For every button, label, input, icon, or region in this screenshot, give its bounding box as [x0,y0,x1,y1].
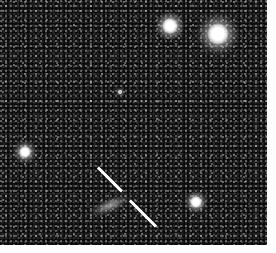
background-grain-sparse [0,0,267,245]
star-faint-center [114,86,126,98]
star-lower-right [182,188,210,216]
marker-tick-upper-left [97,166,123,192]
marker-tick-lower-right [129,199,157,227]
background-grain-fine [0,0,267,245]
background-grain-scanline [0,0,267,245]
background-grain-medium [0,0,267,245]
astronomical-figure [0,0,276,253]
sky-field [0,0,267,245]
star-left [10,137,40,167]
star-upper-middle [153,9,187,43]
diffuse-elongated-source [85,189,135,221]
background-grain-base [0,0,267,245]
star-upper-right [192,8,244,60]
